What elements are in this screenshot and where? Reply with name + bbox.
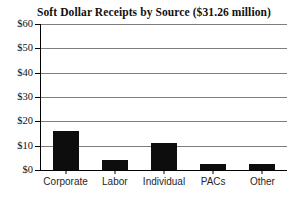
y-axis-tick — [35, 73, 41, 74]
y-axis-tick — [35, 97, 41, 98]
y-axis-label: $20 — [17, 116, 33, 127]
x-axis-tick — [164, 170, 165, 174]
y-axis-label: $30 — [17, 91, 33, 102]
y-axis-tick — [35, 146, 41, 147]
bar-chart-figure: Soft Dollar Receipts by Source ($31.26 m… — [0, 0, 300, 203]
y-axis-label: $50 — [17, 43, 33, 54]
bar — [53, 131, 79, 170]
x-axis-tick — [65, 170, 66, 174]
bar — [102, 160, 128, 170]
y-axis-tick — [35, 48, 41, 49]
bar — [151, 143, 177, 170]
y-axis-label: $0 — [23, 164, 34, 175]
y-axis-tick — [35, 24, 41, 25]
gridline — [41, 24, 287, 25]
gridline — [41, 73, 287, 74]
x-axis-label: Individual — [143, 176, 185, 187]
plot-area: $0$10$20$30$40$50$60CorporateLaborIndivi… — [40, 24, 287, 171]
x-axis-label: Labor — [102, 176, 128, 187]
x-axis-tick — [114, 170, 115, 174]
y-axis-tick — [35, 121, 41, 122]
gridline — [41, 97, 287, 98]
x-axis-label: Corporate — [43, 176, 87, 187]
y-axis-label: $60 — [17, 18, 33, 29]
x-axis-label: Other — [250, 176, 275, 187]
y-axis-tick — [35, 170, 41, 171]
y-axis-label: $10 — [17, 140, 33, 151]
x-axis-tick — [213, 170, 214, 174]
chart-title: Soft Dollar Receipts by Source ($31.26 m… — [20, 6, 288, 18]
gridline — [41, 48, 287, 49]
x-axis-tick — [262, 170, 263, 174]
y-axis-label: $40 — [17, 67, 33, 78]
x-axis-label: PACs — [201, 176, 226, 187]
gridline — [41, 121, 287, 122]
